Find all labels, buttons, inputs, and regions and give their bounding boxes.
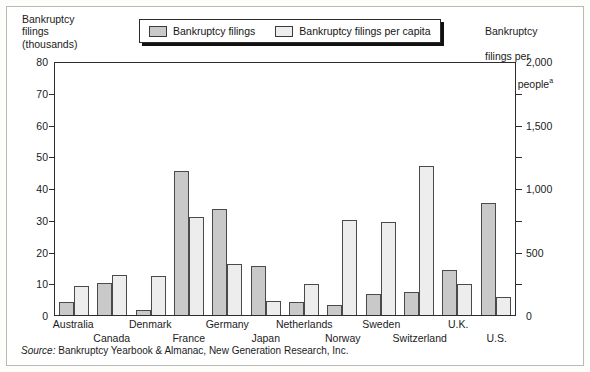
bar-filings-per-capita [74,286,89,315]
bar-filings [404,292,419,315]
bar-filings [97,283,112,315]
left-axis-tick-label: 80 [18,56,48,68]
bar-group [55,63,93,315]
bar-filings-per-capita [151,276,166,315]
legend-swatch-icon-filings [149,26,167,37]
legend-label-filings: Bankruptcy filings [173,25,255,37]
bar-filings [481,203,496,315]
x-axis-tick-label: Denmark [129,318,172,330]
bar-filings-per-capita [266,301,281,315]
x-axis-tick-label: Netherlands [276,318,333,330]
x-axis-tick-label: France [172,332,205,344]
bar-group [477,63,515,315]
right-axis-tick-mark [516,284,522,285]
legend-item-filings-per-capita: Bankruptcy filings per capita [275,25,430,37]
bar-filings-per-capita [189,217,204,315]
x-axis-tick-label: Canada [93,332,130,344]
chart-legend: Bankruptcy filings Bankruptcy filings pe… [139,19,441,43]
left-axis-tick-labels: 80706050403020100 [16,62,48,316]
bar-filings-per-capita [342,220,357,315]
left-axis-tick-label: 10 [18,278,48,290]
source-note: Source: Bankruptcy Yearbook & Almanac, N… [21,345,348,356]
bar-group [323,63,361,315]
left-axis-tick-label: 70 [18,88,48,100]
source-text: Bankruptcy Yearbook & Almanac, New Gener… [58,345,348,356]
right-axis-tick-label: 0 [526,310,532,322]
right-axis-tick-label: 500 [526,247,544,259]
left-axis-tick-label: 60 [18,120,48,132]
bar-group [132,63,170,315]
left-axis-title: Bankruptcy filings (thousands) [22,13,77,50]
bar-filings [289,302,304,315]
x-axis-tick-label: U.K. [448,318,468,330]
right-axis-tick-mark [516,189,522,190]
x-axis-tick-label: Switzerland [393,332,447,344]
bar-group [362,63,400,315]
x-axis-tick-label: Australia [53,318,94,330]
right-axis-tick-mark [516,157,522,158]
x-axis-tick-label: Sweden [362,318,400,330]
legend-label-filings-per-capita: Bankruptcy filings per capita [299,25,430,37]
left-axis-tick-label: 20 [18,247,48,259]
source-prefix: Source: [21,345,55,356]
x-axis-tick-label: U.S. [487,332,507,344]
right-axis-tick-mark [516,94,522,95]
right-axis-title-line1: Bankruptcy [485,25,538,37]
bar-filings-per-capita [419,166,434,315]
left-axis-tick-label: 40 [18,183,48,195]
chart-figure: Bankruptcy filings (thousands) Bankruptc… [0,0,590,372]
bar-filings-per-capita [496,297,511,315]
bar-filings-per-capita [381,222,396,315]
bar-group [400,63,438,315]
legend-item-filings: Bankruptcy filings [149,25,255,37]
bar-filings-per-capita [304,284,319,315]
left-axis-tick-label: 50 [18,151,48,163]
bar-filings [174,171,189,315]
bar-filings-per-capita [457,284,472,315]
bar-group [93,63,131,315]
bar-groups [55,63,515,315]
bar-group [247,63,285,315]
bar-filings [251,266,266,315]
right-axis-tick-mark [516,253,522,254]
right-axis-tick-label: 1,500 [526,120,552,132]
right-axis-tick-mark [516,126,522,127]
legend-swatch-icon-filings-per-capita [275,26,293,37]
bar-filings [327,305,342,315]
right-axis-tick-label: 2,000 [526,56,552,68]
bar-filings [59,302,74,315]
left-axis-tick-label: 30 [18,215,48,227]
x-axis-tick-label: Norway [325,332,361,344]
right-axis-tick-mark [516,221,522,222]
bar-group [170,63,208,315]
bar-filings [442,270,457,315]
right-axis-tick-labels: 05001,0001,5002,000 [522,62,570,316]
bar-filings [212,209,227,315]
left-axis-tick-label: 0 [18,310,48,322]
bar-filings-per-capita [227,264,242,315]
bar-filings-per-capita [112,275,127,315]
bar-filings [136,310,151,315]
x-axis-tick-label: Germany [206,318,249,330]
x-axis-tick-labels: AustraliaCanadaDenmarkFranceGermanyJapan… [54,318,516,348]
bar-group [208,63,246,315]
plot-area [54,62,516,316]
bar-group [438,63,476,315]
x-axis-tick-label: Japan [251,332,280,344]
right-axis-tick-label: 1,000 [526,183,552,195]
bar-group [285,63,323,315]
right-axis-title-line2: filings per [485,50,530,62]
bar-filings [366,294,381,315]
